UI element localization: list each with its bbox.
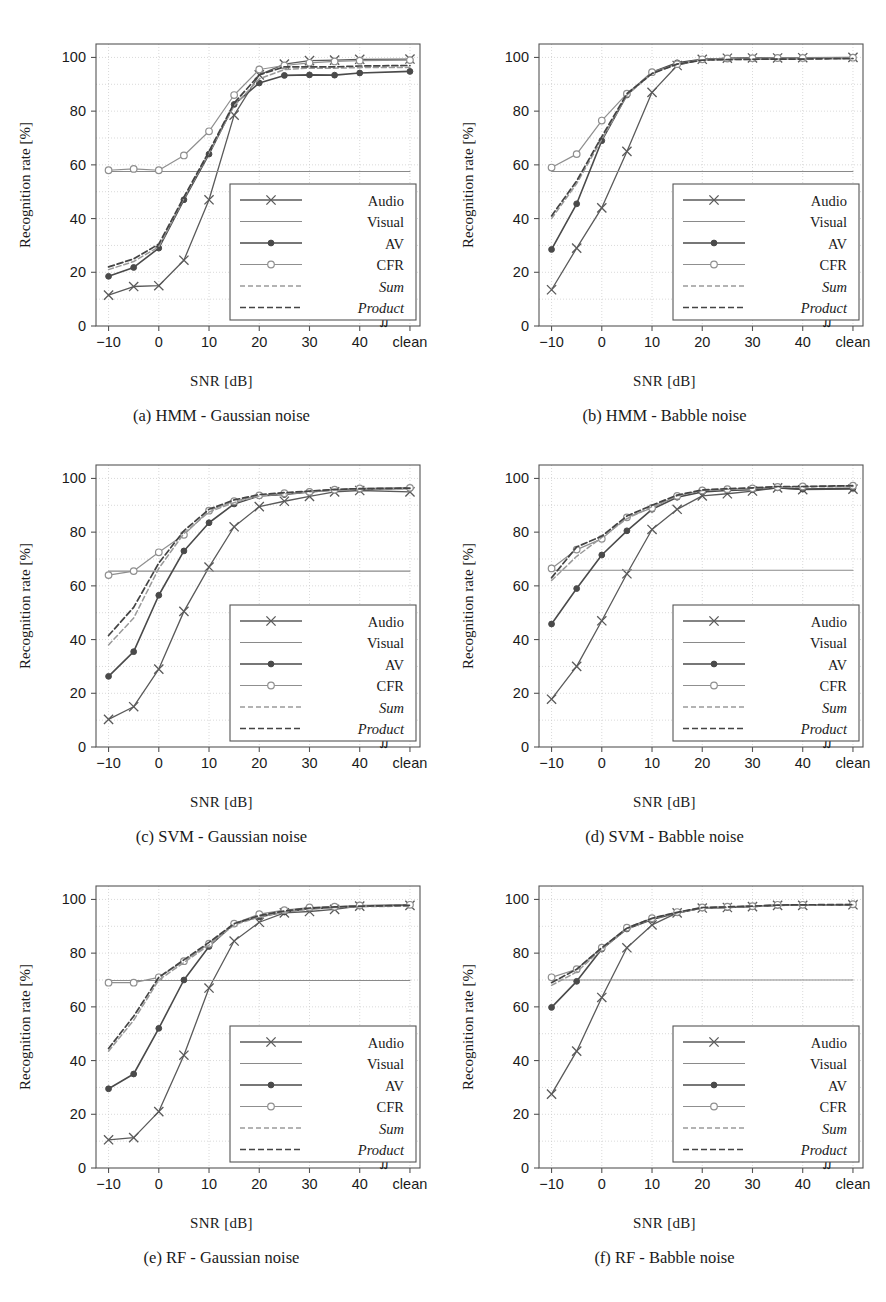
svg-text:80: 80 <box>513 524 529 540</box>
svg-text:60: 60 <box>70 157 86 173</box>
chart-panel-a: −10010203040clean020406080100∬Recognitio… <box>0 18 443 438</box>
legend-label-av: AV <box>828 657 848 673</box>
svg-text:30: 30 <box>301 755 317 771</box>
svg-text:10: 10 <box>644 755 660 771</box>
series-sum <box>552 486 853 580</box>
svg-text:clean: clean <box>836 1176 871 1192</box>
svg-text:40: 40 <box>352 334 368 350</box>
legend-label-cfr: CFR <box>820 1099 848 1115</box>
legend-label-visual: Visual <box>367 1056 404 1072</box>
svg-text:100: 100 <box>505 49 529 65</box>
svg-text:60: 60 <box>513 578 529 594</box>
legend-label-cfr: CFR <box>377 1099 405 1115</box>
svg-text:40: 40 <box>352 1176 368 1192</box>
svg-text:100: 100 <box>505 470 529 486</box>
svg-text:40: 40 <box>795 334 811 350</box>
svg-text:30: 30 <box>301 1176 317 1192</box>
svg-text:−10: −10 <box>96 334 121 350</box>
svg-text:−10: −10 <box>96 1176 121 1192</box>
legend-label-sum: Sum <box>822 1121 847 1137</box>
legend-label-cfr: CFR <box>820 257 848 273</box>
y-axis-label: Recognition rate [%] <box>17 543 33 669</box>
legend-label-audio: Audio <box>811 1035 847 1051</box>
legend-label-av: AV <box>385 657 405 673</box>
svg-text:60: 60 <box>513 999 529 1015</box>
y-axis-label: Recognition rate [%] <box>17 964 33 1090</box>
chart-svg-f: −10010203040clean020406080100∬Recognitio… <box>443 868 886 1213</box>
svg-text:−10: −10 <box>539 334 564 350</box>
x-axis-label: SNR [dB] <box>443 1215 886 1232</box>
svg-text:100: 100 <box>62 891 86 907</box>
svg-text:10: 10 <box>201 1176 217 1192</box>
legend-label-sum: Sum <box>379 1121 404 1137</box>
svg-text:40: 40 <box>70 1053 86 1069</box>
svg-text:0: 0 <box>155 1176 163 1192</box>
svg-text:0: 0 <box>521 318 529 334</box>
chart-panel-e: −10010203040clean020406080100∬Recognitio… <box>0 860 443 1280</box>
svg-text:20: 20 <box>694 755 710 771</box>
legend-label-cfr: CFR <box>377 678 405 694</box>
svg-text:10: 10 <box>201 334 217 350</box>
x-axis-label: SNR [dB] <box>0 1215 443 1232</box>
svg-text:0: 0 <box>78 318 86 334</box>
svg-text:30: 30 <box>744 755 760 771</box>
svg-text:20: 20 <box>694 1176 710 1192</box>
svg-text:0: 0 <box>598 334 606 350</box>
svg-text:100: 100 <box>505 891 529 907</box>
x-axis-label: SNR [dB] <box>0 373 443 390</box>
panel-caption-d: (d) SVM - Babble noise <box>443 827 886 847</box>
legend-label-sum: Sum <box>379 700 404 716</box>
svg-text:80: 80 <box>513 945 529 961</box>
svg-text:40: 40 <box>513 1053 529 1069</box>
legend: AudioVisualAVCFRSumProduct <box>673 184 859 320</box>
svg-text:10: 10 <box>644 1176 660 1192</box>
svg-text:clean: clean <box>393 755 428 771</box>
legend-label-audio: Audio <box>368 193 404 209</box>
legend-label-audio: Audio <box>368 614 404 630</box>
legend-label-sum: Sum <box>822 700 847 716</box>
svg-text:−10: −10 <box>539 755 564 771</box>
legend: AudioVisualAVCFRSumProduct <box>673 605 859 741</box>
svg-text:10: 10 <box>201 755 217 771</box>
svg-text:40: 40 <box>352 755 368 771</box>
svg-text:60: 60 <box>70 578 86 594</box>
svg-text:20: 20 <box>251 334 267 350</box>
svg-text:20: 20 <box>513 1106 529 1122</box>
svg-text:40: 40 <box>795 1176 811 1192</box>
svg-text:0: 0 <box>598 1176 606 1192</box>
legend-label-audio: Audio <box>811 614 847 630</box>
svg-text:40: 40 <box>513 632 529 648</box>
svg-text:40: 40 <box>513 211 529 227</box>
legend-label-av: AV <box>385 236 405 252</box>
svg-text:80: 80 <box>70 524 86 540</box>
legend-label-product: Product <box>800 300 848 316</box>
legend: AudioVisualAVCFRSumProduct <box>673 1026 859 1162</box>
y-axis-label: Recognition rate [%] <box>460 122 476 248</box>
svg-text:clean: clean <box>836 755 871 771</box>
legend-label-visual: Visual <box>367 635 404 651</box>
chart-svg-c: −10010203040clean020406080100∬Recognitio… <box>0 447 443 792</box>
svg-text:20: 20 <box>513 685 529 701</box>
svg-text:40: 40 <box>70 211 86 227</box>
legend-label-av: AV <box>385 1078 405 1094</box>
svg-text:clean: clean <box>836 334 871 350</box>
legend-label-product: Product <box>357 1142 405 1158</box>
svg-text:0: 0 <box>78 1160 86 1176</box>
x-axis-label: SNR [dB] <box>0 794 443 811</box>
svg-text:30: 30 <box>744 334 760 350</box>
svg-text:0: 0 <box>521 1160 529 1176</box>
svg-text:40: 40 <box>795 755 811 771</box>
legend-label-product: Product <box>357 300 405 316</box>
svg-text:80: 80 <box>70 945 86 961</box>
svg-text:−10: −10 <box>539 1176 564 1192</box>
svg-text:20: 20 <box>70 1106 86 1122</box>
svg-text:20: 20 <box>694 334 710 350</box>
legend: AudioVisualAVCFRSumProduct <box>230 184 416 320</box>
svg-text:20: 20 <box>70 264 86 280</box>
svg-text:40: 40 <box>70 632 86 648</box>
legend-label-audio: Audio <box>811 193 847 209</box>
legend-label-visual: Visual <box>810 1056 847 1072</box>
legend-label-product: Product <box>357 721 405 737</box>
svg-text:30: 30 <box>744 1176 760 1192</box>
svg-text:60: 60 <box>513 157 529 173</box>
